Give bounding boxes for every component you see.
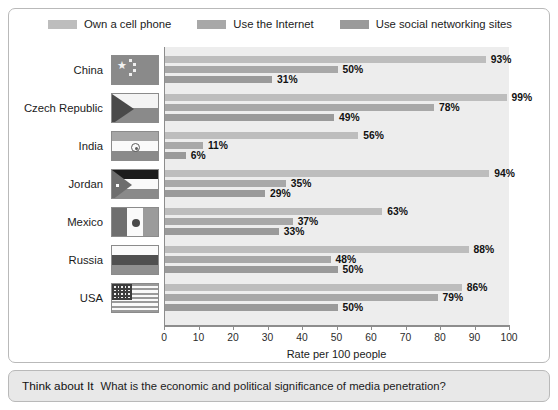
x-tick-mark — [440, 325, 441, 330]
x-tick-label: 100 — [500, 332, 517, 343]
bar-czech-republic-series-2 — [165, 104, 434, 111]
category-label: India — [79, 140, 104, 152]
legend-swatch-social — [340, 20, 369, 29]
bar-value-label: 93% — [486, 56, 512, 63]
bar-usa-series-1 — [165, 284, 462, 291]
bar-group-czech-republic: 99%78%49% — [165, 89, 509, 127]
bar-usa-series-3 — [165, 304, 338, 311]
bar-value-label: 50% — [338, 66, 364, 73]
flag-usa — [111, 279, 161, 317]
flag-china: ★ — [111, 51, 161, 89]
x-tick-label: 80 — [434, 332, 445, 343]
category-label: China — [73, 64, 103, 76]
x-tick-label: 20 — [227, 332, 238, 343]
category-label: Russia — [68, 254, 103, 266]
bar-india-series-2 — [165, 142, 203, 149]
category-label-row: Mexico — [9, 203, 109, 241]
bar-group-jordan: 94%35%29% — [165, 165, 509, 203]
legend-item-internet: Use the Internet — [197, 19, 313, 30]
bar-value-label: 49% — [334, 114, 360, 121]
x-tick-label: 0 — [161, 332, 167, 343]
category-label-row: Czech Republic — [9, 89, 109, 127]
bar-value-label: 50% — [338, 266, 364, 273]
x-tick-mark — [475, 325, 476, 330]
x-tick-label: 30 — [262, 332, 273, 343]
bar-value-label: 37% — [293, 218, 319, 225]
bar-value-label: 63% — [382, 208, 408, 215]
x-tick-label: 70 — [400, 332, 411, 343]
x-tick-label: 90 — [469, 332, 480, 343]
x-tick-mark — [302, 325, 303, 330]
category-label-row: Jordan — [9, 165, 109, 203]
flag-jordan — [111, 165, 161, 203]
bar-russia-series-1 — [165, 246, 469, 253]
category-label: Jordan — [68, 178, 103, 190]
bar-china-series-2 — [165, 66, 338, 73]
x-tick-mark — [371, 325, 372, 330]
x-tick-mark — [509, 325, 510, 330]
plot-canvas: 93%50%31%99%78%49%56%11%6%94%35%29%63%37… — [164, 47, 509, 325]
bar-value-label: 29% — [265, 190, 291, 197]
category-label: Mexico — [67, 216, 103, 228]
bar-value-label: 31% — [272, 76, 298, 83]
legend-item-social: Use social networking sites — [340, 19, 512, 30]
bar-czech-republic-series-1 — [165, 94, 507, 101]
bar-china-series-3 — [165, 76, 272, 83]
category-label-row: China — [9, 51, 109, 89]
bar-jordan-series-1 — [165, 170, 489, 177]
think-about-it-caption: Think about It What is the economic and … — [8, 370, 550, 402]
bar-group-india: 56%11%6% — [165, 127, 509, 165]
bar-value-label: 48% — [331, 256, 357, 263]
bar-value-label: 79% — [438, 294, 464, 301]
category-label-column: ChinaCzech RepublicIndiaJordanMexicoRuss… — [9, 47, 109, 325]
bar-value-label: 56% — [358, 132, 384, 139]
x-tick-mark — [337, 325, 338, 330]
flag-mexico — [111, 203, 161, 241]
x-tick-label: 50 — [331, 332, 342, 343]
legend-label-social: Use social networking sites — [376, 19, 512, 30]
figure-root: Own a cell phoneUse the InternetUse soci… — [0, 0, 558, 410]
x-tick-label: 40 — [296, 332, 307, 343]
legend-swatch-internet — [197, 20, 226, 29]
category-label-row: USA — [9, 279, 109, 317]
bar-mexico-series-1 — [165, 208, 382, 215]
flag-russia — [111, 241, 161, 279]
category-label-row: India — [9, 127, 109, 165]
legend-swatch-cell — [48, 20, 77, 29]
flag-czech-republic — [111, 89, 161, 127]
legend-item-cell: Own a cell phone — [48, 19, 171, 30]
bar-value-label: 33% — [279, 228, 305, 235]
legend-label-cell: Own a cell phone — [84, 19, 171, 30]
x-tick-mark — [406, 325, 407, 330]
bar-value-label: 88% — [469, 246, 495, 253]
bar-india-series-1 — [165, 132, 358, 139]
x-tick-mark — [164, 325, 165, 330]
x-tick-mark — [233, 325, 234, 330]
x-tick-mark — [199, 325, 200, 330]
bar-group-russia: 88%48%50% — [165, 241, 509, 279]
bar-group-mexico: 63%37%33% — [165, 203, 509, 241]
category-label-row: Russia — [9, 241, 109, 279]
caption-question-text: What is the economic and political signi… — [100, 380, 445, 392]
x-tick-label: 10 — [193, 332, 204, 343]
bar-china-series-1 — [165, 56, 486, 63]
bar-value-label: 11% — [203, 142, 228, 149]
bar-india-series-3 — [165, 152, 186, 159]
bar-group-usa: 86%79%50% — [165, 279, 509, 317]
x-tick-mark — [268, 325, 269, 330]
bar-jordan-series-3 — [165, 190, 265, 197]
flag-column: ★ — [111, 47, 161, 325]
bar-czech-republic-series-3 — [165, 114, 334, 121]
bar-value-label: 6% — [186, 152, 206, 159]
bar-value-label: 99% — [507, 94, 533, 101]
flag-india — [111, 127, 161, 165]
bar-jordan-series-2 — [165, 180, 286, 187]
category-label: Czech Republic — [24, 102, 103, 114]
caption-lead-label: Think about It — [22, 379, 93, 393]
x-tick-label: 60 — [365, 332, 376, 343]
bar-usa-series-2 — [165, 294, 438, 301]
bar-mexico-series-3 — [165, 228, 279, 235]
chart-legend: Own a cell phoneUse the InternetUse soci… — [9, 19, 551, 30]
x-axis-title: Rate per 100 people — [164, 348, 509, 360]
chart-frame: Own a cell phoneUse the InternetUse soci… — [8, 8, 550, 363]
